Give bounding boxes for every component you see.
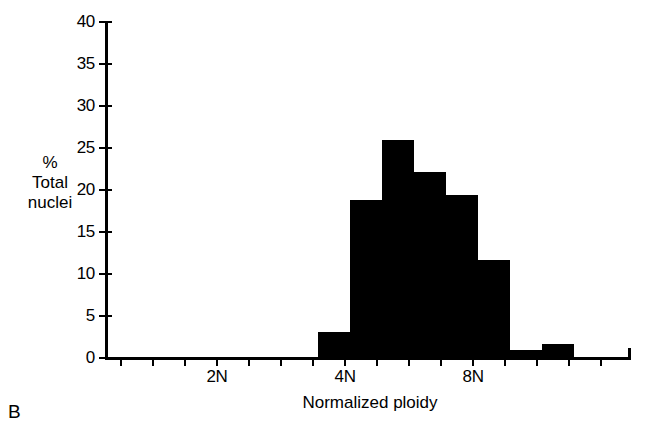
y-axis-title-line: nuclei	[4, 193, 96, 213]
x-tick-mark	[216, 357, 218, 366]
y-axis-title-line: Total	[4, 173, 96, 193]
y-tick-label: 35	[55, 55, 95, 72]
x-tick-mark	[184, 357, 186, 366]
x-tick-mark	[536, 357, 538, 366]
x-tick-mark	[152, 357, 154, 366]
y-axis-title: %Totalnuclei	[4, 153, 96, 213]
panel-label: B	[8, 402, 21, 422]
x-tick-mark	[312, 357, 314, 366]
histogram-bar	[414, 172, 446, 358]
histogram-bar	[350, 200, 382, 358]
y-tick-label: 5	[55, 307, 95, 324]
histogram-bar	[478, 260, 510, 358]
x-tick-mark	[280, 357, 282, 366]
y-tick-label: 15	[55, 223, 95, 240]
x-tick-mark	[440, 357, 442, 366]
histogram-bar	[542, 344, 574, 358]
x-tick-mark	[472, 357, 474, 366]
y-tick-label: 30	[55, 97, 95, 114]
x-axis-title: Normalized ploidy	[175, 393, 565, 412]
y-tick-label: 10	[55, 265, 95, 282]
x-tick-mark	[376, 357, 378, 366]
y-axis-title-line: %	[4, 153, 96, 173]
x-tick-mark	[408, 357, 410, 366]
x-tick-mark	[504, 357, 506, 366]
y-tick-label: 40	[55, 13, 95, 30]
x-tick-mark	[248, 357, 250, 366]
x-tick-mark	[600, 357, 602, 366]
histogram-bar	[446, 195, 478, 358]
histogram-bar	[318, 332, 350, 358]
y-tick-label: 0	[55, 349, 95, 366]
x-tick-mark	[344, 357, 346, 366]
plot-area	[105, 22, 630, 358]
x-tick-label: 4N	[320, 367, 370, 386]
x-tick-mark	[568, 357, 570, 366]
figure-panel-b: 0510152025303540 2N4N8N %Totalnuclei Nor…	[0, 0, 646, 428]
x-tick-label: 2N	[192, 367, 242, 386]
histogram-bar	[510, 350, 542, 358]
x-tick-label: 8N	[448, 367, 498, 386]
histogram-bar	[382, 140, 414, 358]
x-tick-mark	[120, 357, 122, 366]
